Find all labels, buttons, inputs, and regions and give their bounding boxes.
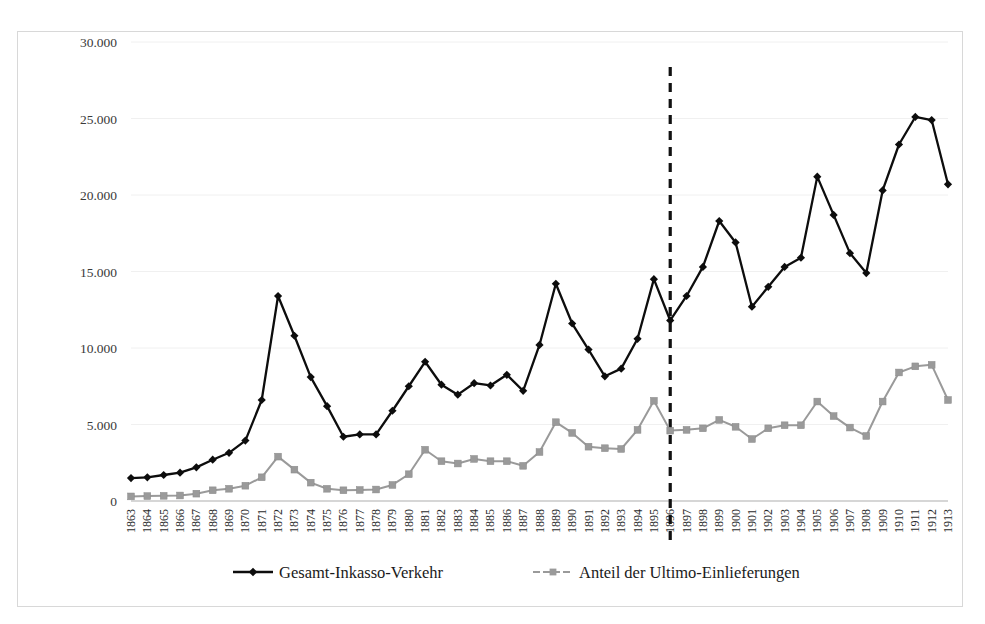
data-point-marker	[520, 462, 527, 469]
data-point-marker	[912, 363, 919, 370]
data-point-marker	[242, 482, 249, 489]
x-axis-tick-label: 1902	[761, 509, 775, 533]
data-point-marker	[552, 419, 559, 426]
data-point-marker	[536, 449, 543, 456]
data-point-marker	[830, 413, 837, 420]
x-axis-tick-label: 1903	[778, 509, 792, 533]
x-axis-tick-label: 1908	[859, 509, 873, 533]
data-point-marker	[340, 487, 347, 494]
data-point-marker	[618, 446, 625, 453]
x-axis-tick-label: 1905	[810, 509, 824, 533]
x-axis-tick-label: 1900	[729, 509, 743, 533]
data-series-group	[127, 113, 952, 500]
data-point-marker	[928, 361, 935, 368]
gridlines-group	[131, 42, 948, 501]
x-axis-tick-label: 1911	[908, 509, 922, 533]
y-axis-tick-labels: 05.00010.00015.00020.00025.00030.000	[80, 35, 117, 509]
data-point-marker	[389, 482, 396, 489]
x-axis-tick-label: 1866	[173, 509, 187, 533]
x-axis-tick-label: 1881	[418, 509, 432, 533]
x-axis-tick-label: 1864	[140, 509, 154, 533]
x-axis-tick-label: 1889	[549, 509, 563, 533]
data-point-marker	[879, 186, 887, 194]
data-point-marker	[127, 474, 135, 482]
data-point-marker	[258, 474, 265, 481]
data-point-marker	[945, 397, 952, 404]
data-point-marker	[847, 424, 854, 431]
data-point-marker	[291, 466, 298, 473]
x-axis-tick-labels: 1863186418651866186718681869187018711872…	[124, 509, 955, 533]
data-point-marker	[209, 487, 216, 494]
data-point-marker	[700, 425, 707, 432]
x-axis-tick-label: 1867	[189, 509, 203, 533]
x-axis-tick-label: 1870	[238, 509, 252, 533]
data-point-marker	[879, 398, 886, 405]
line-chart-svg: 05.00010.00015.00020.00025.00030.000 186…	[18, 32, 964, 608]
data-point-marker	[896, 369, 903, 376]
data-point-marker	[749, 436, 756, 443]
x-axis-tick-label: 1907	[843, 509, 857, 533]
data-point-marker	[192, 463, 200, 471]
y-axis-tick-label: 20.000	[80, 188, 117, 203]
data-point-marker	[160, 492, 167, 499]
data-point-marker	[193, 490, 200, 497]
data-point-marker	[781, 422, 788, 429]
cropped-header-text	[0, 0, 985, 12]
x-axis-tick-label: 1894	[631, 509, 645, 533]
legend-marker	[550, 569, 557, 576]
data-point-marker	[569, 430, 576, 437]
data-point-marker	[765, 425, 772, 432]
data-point-marker	[585, 443, 592, 450]
data-point-marker	[356, 430, 364, 438]
legend-marker	[249, 568, 258, 577]
chart-figure-frame: 05.00010.00015.00020.00025.00030.000 186…	[17, 31, 963, 607]
x-axis-tick-label: 1876	[336, 509, 350, 533]
data-point-marker	[667, 427, 674, 434]
data-point-marker	[650, 397, 657, 404]
x-axis-tick-label: 1892	[598, 509, 612, 533]
data-point-marker	[356, 487, 363, 494]
data-point-marker	[177, 492, 184, 499]
x-axis-tick-label: 1906	[827, 509, 841, 533]
data-point-marker	[226, 485, 233, 492]
x-axis-tick-label: 1879	[385, 509, 399, 533]
x-axis-tick-label: 1868	[206, 509, 220, 533]
data-point-marker	[143, 473, 151, 481]
data-point-marker	[813, 173, 821, 181]
data-point-marker	[944, 180, 952, 188]
x-axis-tick-label: 1888	[533, 509, 547, 533]
x-axis-tick-label: 1874	[304, 509, 318, 533]
series-line-1	[131, 117, 948, 478]
x-axis-tick-label: 1885	[483, 509, 497, 533]
data-point-marker	[552, 280, 560, 288]
data-point-marker	[274, 292, 282, 300]
chart-plot-area: 05.00010.00015.00020.00025.00030.000 186…	[18, 32, 962, 606]
x-axis-tick-label: 1872	[271, 509, 285, 533]
y-axis-tick-label: 10.000	[80, 341, 117, 356]
data-point-marker	[128, 493, 135, 500]
chart-legend: Gesamt-Inkasso-VerkehrAnteil der Ultimo-…	[233, 563, 800, 582]
x-axis-tick-label: 1863	[124, 509, 138, 533]
x-axis-tick-label: 1890	[565, 509, 579, 533]
data-point-marker	[863, 433, 870, 440]
x-axis-tick-label: 1909	[876, 509, 890, 533]
data-point-marker	[487, 458, 494, 465]
data-point-marker	[798, 422, 805, 429]
x-axis-tick-label: 1865	[157, 509, 171, 533]
x-axis-tick-label: 1910	[892, 509, 906, 533]
x-axis-tick-label: 1883	[451, 509, 465, 533]
x-axis-tick-label: 1882	[434, 509, 448, 533]
data-point-marker	[176, 469, 184, 477]
x-axis-tick-label: 1904	[794, 509, 808, 533]
data-point-marker	[454, 460, 461, 467]
x-axis-tick-label: 1869	[222, 509, 236, 533]
x-axis-tick-label: 1891	[582, 509, 596, 533]
data-point-marker	[339, 433, 347, 441]
data-point-marker	[373, 486, 380, 493]
data-point-marker	[683, 426, 690, 433]
x-axis-tick-label: 1873	[287, 509, 301, 533]
x-axis-tick-label: 1871	[255, 509, 269, 533]
data-point-marker	[503, 458, 510, 465]
data-point-marker	[830, 211, 838, 219]
legend-label: Gesamt-Inkasso-Verkehr	[279, 563, 444, 582]
